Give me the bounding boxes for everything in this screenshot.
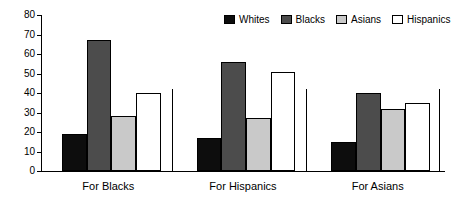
- y-tick-label: 30: [24, 108, 35, 118]
- bar-hispanics-group-3: [405, 103, 430, 171]
- category-label-1: For Blacks: [41, 180, 176, 193]
- plot-area: 01020304050607080: [41, 15, 445, 172]
- y-tick-mark: [37, 171, 41, 172]
- bar-blacks-group-2: [221, 62, 246, 171]
- bar-hispanics-group-2: [271, 72, 296, 171]
- group-separator: [306, 89, 307, 171]
- bar-whites-group-2: [197, 138, 222, 171]
- y-axis-line: [41, 15, 42, 172]
- y-tick-mark: [37, 54, 41, 55]
- y-tick-mark: [37, 74, 41, 75]
- bar-blacks-group-1: [87, 40, 112, 171]
- y-tick-mark: [37, 35, 41, 36]
- bar-chart: Whites Blacks Asians Hispanics 010203040…: [0, 0, 456, 215]
- y-tick-label: 20: [24, 127, 35, 137]
- group-separator: [172, 89, 173, 171]
- y-tick-label: 70: [24, 30, 35, 40]
- bar-asians-group-1: [111, 116, 136, 171]
- y-tick-mark: [37, 93, 41, 94]
- bar-hispanics-group-1: [136, 93, 161, 171]
- x-axis-line: [41, 171, 445, 172]
- y-tick-label: 80: [24, 10, 35, 20]
- group-separator: [439, 89, 440, 171]
- bar-asians-group-3: [381, 109, 406, 171]
- y-tick-mark: [37, 152, 41, 153]
- y-tick-label: 0: [29, 166, 35, 176]
- y-tick-label: 50: [24, 69, 35, 79]
- y-tick-mark: [37, 113, 41, 114]
- y-tick-mark: [37, 15, 41, 16]
- y-tick-label: 10: [24, 147, 35, 157]
- category-label-3: For Asians: [310, 180, 445, 193]
- bar-blacks-group-3: [356, 93, 381, 171]
- y-tick-label: 60: [24, 49, 35, 59]
- category-label-2: For Hispanics: [176, 180, 311, 193]
- bar-whites-group-1: [62, 134, 87, 171]
- bar-whites-group-3: [331, 142, 356, 171]
- y-tick-label: 40: [24, 88, 35, 98]
- x-axis-category-labels: For BlacksFor HispanicsFor Asians: [41, 180, 445, 196]
- bar-asians-group-2: [246, 118, 271, 171]
- y-axis-tick-labels: 01020304050607080: [3, 15, 35, 172]
- y-tick-mark: [37, 132, 41, 133]
